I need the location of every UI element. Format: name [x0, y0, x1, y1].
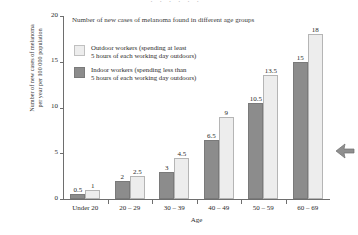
bar-value-label: 4.5 — [177, 150, 186, 158]
bar-value-label: 2 — [121, 173, 125, 181]
x-category-label: 20 – 29 — [119, 204, 140, 212]
bar-outdoor: 13.5 — [263, 75, 278, 199]
bar-indoor: 15 — [293, 62, 308, 199]
bar-value-label: 2.5 — [133, 168, 142, 176]
left-arrow-marker-icon — [334, 141, 356, 161]
bar-group: 6.5940 – 49 — [197, 16, 242, 199]
y-tick-mark — [60, 199, 64, 200]
bar-outdoor: 18 — [308, 34, 323, 199]
y-tick-label: 20 — [51, 11, 58, 19]
x-category-label: 30 – 39 — [164, 204, 185, 212]
x-category-label: 40 – 49 — [208, 204, 229, 212]
bar-indoor: 0.5 — [70, 194, 85, 199]
bar-value-label: 0.5 — [73, 186, 82, 194]
bar-indoor: 2 — [115, 181, 130, 199]
x-tick-mark — [108, 200, 109, 204]
y-tick-label: 0 — [55, 194, 59, 202]
bar-value-label: 6.5 — [207, 132, 216, 140]
y-tick-label: 5 — [55, 148, 59, 156]
bar-indoor: 3 — [159, 172, 174, 199]
bar-indoor: 10.5 — [248, 103, 263, 199]
x-tick-mark — [152, 200, 153, 204]
bar-value-label: 13.5 — [265, 67, 277, 75]
bar-outdoor: 9 — [219, 117, 234, 199]
bar-group: 34.530 – 39 — [152, 16, 197, 199]
x-tick-mark — [197, 200, 198, 204]
bar-value-label: 10.5 — [250, 95, 262, 103]
bar-outdoor: 2.5 — [130, 176, 145, 199]
bar-value-label: 15 — [297, 54, 304, 62]
bar-outdoor: 1 — [85, 190, 100, 199]
bar-group: 10.513.550 – 59 — [241, 16, 286, 199]
bar-value-label: 9 — [225, 109, 229, 117]
y-tick-label: 10 — [51, 102, 58, 110]
bar-group: 0.51Under 20 — [63, 16, 108, 199]
bar-group: 151860 – 69 — [286, 16, 331, 199]
x-axis-title: Age — [63, 216, 330, 224]
melanoma-bar-chart-figure: · · · · · · Number of new cases of melan… — [0, 0, 358, 235]
x-tick-mark — [286, 200, 287, 204]
bar-indoor: 6.5 — [204, 140, 219, 199]
y-axis-title: Number of new cases of melanoma per year… — [28, 0, 44, 148]
bar-value-label: 3 — [165, 164, 169, 172]
x-tick-mark — [241, 200, 242, 204]
bar-value-label: 1 — [91, 182, 95, 190]
bar-group: 22.520 – 29 — [108, 16, 153, 199]
x-category-label: 60 – 69 — [297, 204, 318, 212]
plot-area: 051015200.51Under 2022.520 – 2934.530 – … — [63, 16, 330, 200]
x-category-label: 50 – 59 — [253, 204, 274, 212]
y-tick-label: 15 — [51, 56, 58, 64]
cut-off-text-remnant: · · · · · · — [150, 0, 350, 3]
bar-outdoor: 4.5 — [174, 158, 189, 199]
bar-value-label: 18 — [312, 26, 319, 34]
x-category-label: Under 20 — [72, 204, 98, 212]
